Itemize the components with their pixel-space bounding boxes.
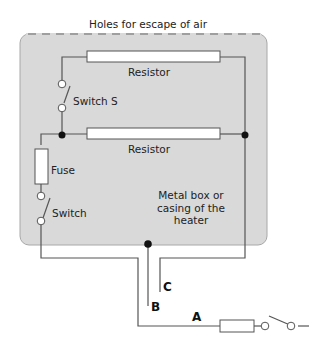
circuit-diagram [0, 0, 325, 353]
external-switch-contact-left [261, 322, 269, 330]
casing-label-line3: heater [150, 214, 232, 227]
wire-c-label: C [163, 280, 172, 294]
earth-junction-dot [144, 240, 152, 248]
air-holes-label: Holes for escape of air [89, 18, 207, 31]
fuse-label: Fuse [51, 164, 75, 177]
switch-s-contact-top [58, 80, 66, 88]
casing-label: Metal box or casing of the heater [150, 189, 232, 227]
junction-dot-left [59, 132, 66, 139]
switch-label: Switch [52, 207, 87, 220]
wire-b-label: B [151, 300, 160, 314]
resistor-top [87, 51, 220, 62]
resistor-top-label: Resistor [128, 66, 170, 79]
casing-label-line2: casing of the [150, 202, 232, 215]
wire-a-label: A [192, 310, 201, 324]
external-switch-contact-right [287, 322, 295, 330]
resistor-middle [87, 128, 220, 139]
fuse-component [35, 149, 48, 184]
switch-s-contact-bottom [58, 104, 66, 112]
switch-s-label: Switch S [73, 95, 118, 108]
external-fuse [220, 320, 254, 332]
resistor-middle-label: Resistor [128, 143, 170, 156]
casing-label-line1: Metal box or [150, 189, 232, 202]
junction-dot-right [242, 132, 249, 139]
switch-contact-top [37, 192, 45, 200]
switch-contact-bottom [37, 217, 45, 225]
